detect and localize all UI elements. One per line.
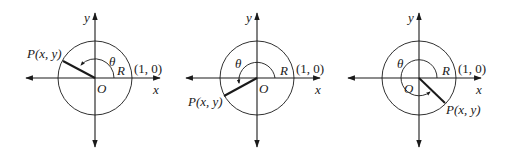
y-axis-label: y (406, 10, 414, 25)
radius-label: R (441, 63, 450, 78)
angle-label: θ (235, 56, 242, 71)
x-axis-label: x (314, 82, 321, 97)
terminal-ray (419, 78, 445, 103)
point-label: P(x, y) (445, 102, 481, 117)
unit-point-label: (1, 0) (458, 61, 486, 76)
y-axis-label: y (82, 10, 90, 25)
terminal-ray (224, 78, 257, 96)
panel-quadrant-3: y x O θ R (1, 0) P(x, y) (186, 10, 324, 147)
angle-label: θ (397, 56, 404, 71)
point-label: P(x, y) (187, 94, 223, 109)
terminal-ray (63, 61, 95, 78)
x-axis-label: x (152, 82, 159, 97)
unit-circle-figure: y x O θ R (1, 0) P(x, y) y x O θ R (1, 0… (0, 0, 509, 160)
point-label: P(x, y) (26, 46, 62, 61)
radius-label: R (116, 63, 125, 78)
origin-label: O (404, 81, 414, 96)
origin-label: O (259, 81, 269, 96)
unit-point-label: (1, 0) (134, 61, 162, 76)
radius-label: R (279, 63, 288, 78)
unit-point-label: (1, 0) (296, 61, 324, 76)
x-axis-label: x (475, 82, 482, 97)
panel-quadrant-4: y x O θ R (1, 0) P(x, y) (348, 10, 486, 147)
panel-quadrant-2: y x O θ R (1, 0) P(x, y) (26, 10, 162, 147)
origin-label: O (97, 81, 107, 96)
angle-label: θ (109, 54, 116, 69)
y-axis-label: y (244, 10, 252, 25)
